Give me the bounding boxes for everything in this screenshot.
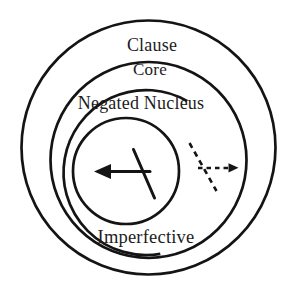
negation-arrow-dashed-icon bbox=[190, 143, 239, 191]
dashed-arrow-slash bbox=[190, 143, 217, 191]
imperfective-label: Imperfective bbox=[98, 227, 195, 248]
negated-nucleus-label: Negated Nucleus bbox=[78, 93, 204, 114]
operator-scope-diagram: Clause Core Negated Nucleus Imperfective bbox=[0, 0, 296, 292]
negation-arrow-solid-icon bbox=[94, 150, 155, 199]
core-label: Core bbox=[133, 60, 167, 80]
solid-arrow-slash bbox=[134, 150, 155, 199]
dashed-arrow-head bbox=[229, 163, 239, 172]
clause-label: Clause bbox=[127, 35, 177, 56]
solid-arrow-head bbox=[94, 164, 111, 179]
